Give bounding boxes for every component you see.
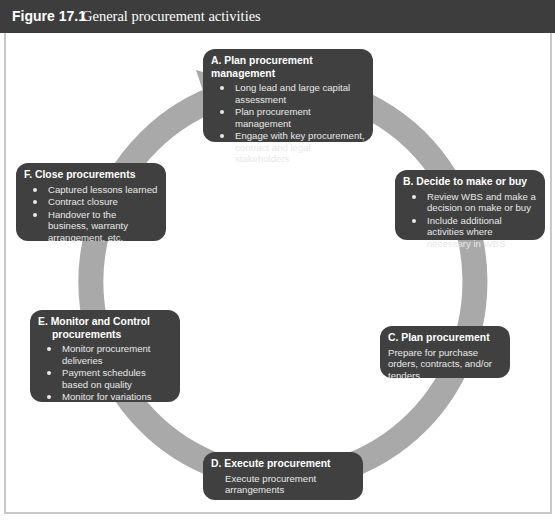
step-description-d: Execute procurement arrangements (211, 473, 355, 496)
bullet-item: Captured lessons learned (48, 184, 158, 196)
step-bullets-f: Captured lessons learned Contract closur… (24, 184, 158, 244)
step-box-d: D. Execute procurement Execute procureme… (203, 452, 363, 500)
step-box-e: E. Monitor and Control procurements Moni… (30, 310, 180, 402)
bullet-item: Plan procurement management (235, 106, 365, 129)
step-title-c: C. Plan procurement (388, 332, 502, 345)
step-title-a: A. Plan procurement management (211, 55, 365, 80)
step-title-e-line1: E. Monitor and Control (38, 316, 172, 329)
bullet-item: Payment schedules based on quality (62, 367, 172, 390)
step-description-c: Prepare for purchase orders, contracts, … (388, 347, 502, 382)
step-box-a: A. Plan procurement management Long lead… (203, 49, 373, 142)
step-bullets-e: Monitor procurement deliveries Payment s… (38, 343, 172, 403)
bullet-item: Monitor for variations (62, 391, 172, 403)
step-title-b: B. Decide to make or buy (403, 176, 537, 189)
bullet-item: Review WBS and make a decision on make o… (427, 191, 537, 214)
bullet-item: Contract closure (48, 196, 158, 208)
bullet-item: Include additional activities where nece… (427, 215, 537, 250)
step-box-c: C. Plan procurement Prepare for purchase… (380, 326, 510, 378)
step-title-f: F. Close procurements (24, 169, 158, 182)
step-title-e-line2: procurements (38, 329, 172, 342)
bullet-item: Handover to the business, warranty arran… (48, 209, 158, 244)
step-bullets-b: Review WBS and make a decision on make o… (403, 191, 537, 250)
step-title-d: D. Execute procurement (211, 458, 355, 471)
step-box-b: B. Decide to make or buy Review WBS and … (395, 170, 545, 240)
bullet-item: Monitor procurement deliveries (62, 343, 172, 366)
bullet-item: Engage with key procurement, contract an… (235, 130, 365, 165)
step-box-f: F. Close procurements Captured lessons l… (16, 163, 166, 241)
step-bullets-a: Long lead and large capital assessment P… (211, 82, 365, 165)
bullet-item: Long lead and large capital assessment (235, 82, 365, 105)
